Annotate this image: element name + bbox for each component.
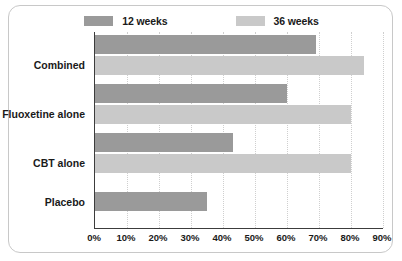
legend-swatch-36-weeks bbox=[236, 16, 265, 26]
x-tick-label: 20% bbox=[148, 232, 167, 243]
bar-series-container bbox=[95, 32, 383, 228]
category-label-fluoxetine-alone: Fluoxetine alone bbox=[2, 108, 85, 120]
legend-swatch-12-weeks bbox=[84, 16, 113, 26]
chart-legend: 12 weeks 36 weeks bbox=[9, 11, 394, 31]
bar-placebo-12-weeks[interactable] bbox=[95, 192, 207, 211]
bar-cbt-alone-12-weeks[interactable] bbox=[95, 133, 233, 152]
x-tick-label: 10% bbox=[116, 232, 135, 243]
chart-figure: 12 weeks 36 weeks CombinedFluoxetine alo… bbox=[8, 5, 393, 253]
legend-label-36-weeks: 36 weeks bbox=[274, 15, 319, 27]
x-tick-label: 50% bbox=[244, 232, 263, 243]
bar-cbt-alone-36-weeks[interactable] bbox=[95, 154, 351, 173]
bar-fluoxetine-alone-12-weeks[interactable] bbox=[95, 84, 287, 103]
x-tick-label: 40% bbox=[212, 232, 231, 243]
legend-entry-36-weeks[interactable]: 36 weeks bbox=[236, 15, 319, 27]
category-label-cbt-alone: CBT alone bbox=[33, 157, 85, 169]
category-label-placebo: Placebo bbox=[45, 196, 85, 208]
legend-entry-12-weeks[interactable]: 12 weeks bbox=[84, 15, 167, 27]
x-tick-label: 90% bbox=[372, 232, 391, 243]
legend-label-12-weeks: 12 weeks bbox=[122, 15, 167, 27]
bar-fluoxetine-alone-36-weeks[interactable] bbox=[95, 105, 351, 124]
x-tick-label: 0% bbox=[87, 232, 101, 243]
category-axis-labels: CombinedFluoxetine aloneCBT alonePlacebo bbox=[9, 32, 89, 228]
x-tick-label: 70% bbox=[308, 232, 327, 243]
x-tick-label: 30% bbox=[180, 232, 199, 243]
bar-combined-12-weeks[interactable] bbox=[95, 35, 316, 54]
plot-area bbox=[94, 32, 383, 229]
x-tick-label: 60% bbox=[276, 232, 295, 243]
gridline bbox=[383, 32, 384, 228]
bar-combined-36-weeks[interactable] bbox=[95, 56, 364, 75]
x-tick-label: 80% bbox=[340, 232, 359, 243]
x-axis-tick-labels: 0%10%20%30%40%50%60%70%80%90% bbox=[94, 232, 382, 248]
category-label-combined: Combined bbox=[34, 59, 85, 71]
